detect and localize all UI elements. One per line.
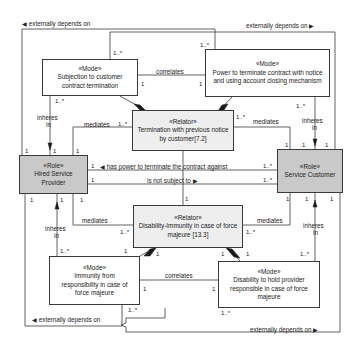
mult: 1 bbox=[302, 142, 305, 149]
mode-immunity-from-responsibility[interactable]: «Mode» Immunity from responsibility in c… bbox=[49, 256, 140, 305]
label-mediates-tl: mediates bbox=[84, 121, 110, 128]
mult: 1..* bbox=[113, 50, 122, 57]
mult: 1 bbox=[143, 286, 146, 293]
mult: 1..* bbox=[246, 229, 255, 236]
class-name: Disability-Immunity in case of force maj… bbox=[137, 222, 239, 239]
mult: 1 bbox=[325, 142, 328, 149]
label-mediates-bl: mediates bbox=[82, 217, 108, 224]
mult: 1..* bbox=[296, 103, 305, 110]
mult: 1 bbox=[76, 148, 79, 155]
mult: 1..* bbox=[236, 114, 245, 121]
label-has-power-to-terminate: ◀ has power to terminate the contract ag… bbox=[100, 163, 228, 171]
mult: 1 bbox=[199, 81, 202, 88]
class-name: Subjection to customer contract terminat… bbox=[46, 73, 134, 90]
stereotype-label: «Mode» bbox=[256, 60, 279, 68]
mult: 1 bbox=[91, 177, 94, 184]
mult: 1 bbox=[286, 196, 289, 203]
label-mediates-tr: mediates bbox=[253, 118, 279, 125]
mult: 1..* bbox=[300, 251, 309, 258]
label-inheres-bl: inheres bbox=[45, 225, 66, 232]
class-name: Hired Service Provider bbox=[28, 170, 79, 187]
diamond-bl bbox=[144, 248, 156, 256]
arrow-right-icon: ▶ bbox=[309, 23, 314, 30]
label-is-not-subject-to: is not subject to ▶ bbox=[147, 177, 198, 185]
mult: 1 bbox=[30, 197, 33, 204]
mult: 1..* bbox=[221, 310, 230, 317]
stereotype-label: «Mode» bbox=[83, 264, 106, 272]
arrow-left-icon: ◀ bbox=[22, 21, 27, 28]
mult: 1 bbox=[305, 196, 308, 203]
arrow-right-icon: ▶ bbox=[313, 327, 318, 334]
mult: 1..* bbox=[200, 42, 209, 49]
class-name: Immunity from responsibility in case of … bbox=[56, 272, 133, 297]
mult: 1..* bbox=[263, 163, 272, 170]
label-in-br: in bbox=[313, 229, 318, 236]
mult: 1..* bbox=[55, 98, 64, 105]
mult: 1 bbox=[25, 148, 28, 155]
mult: 1 bbox=[330, 196, 333, 203]
mode-disability-to-hold-provider-responsible[interactable]: «Mode» Disability to hold provider respo… bbox=[218, 261, 320, 308]
mult: 1 bbox=[156, 251, 159, 258]
label-correlates-bottom: correlates bbox=[165, 272, 193, 279]
label-in-tr: in bbox=[312, 124, 317, 131]
stereotype-label: «Relator» bbox=[169, 118, 197, 126]
class-name: Service Customer bbox=[285, 171, 336, 179]
class-name: Power to terminate contract with notice … bbox=[209, 69, 326, 86]
stereotype-label: «Mode» bbox=[257, 268, 280, 276]
label-in-bl: in bbox=[54, 232, 59, 239]
stereotype-label: «Role» bbox=[43, 162, 63, 170]
label-inheres-br: inheres bbox=[303, 222, 324, 229]
mult: 1..* bbox=[128, 307, 137, 314]
edge-mediates-tr bbox=[234, 127, 290, 149]
mult: 1 bbox=[246, 251, 249, 258]
label-externally-depends-on-bottom-left: ◀ externally depends on bbox=[32, 316, 100, 324]
class-name: Termination with previous notice by cust… bbox=[136, 126, 230, 143]
mult: 1 bbox=[80, 197, 83, 204]
relator-disability-immunity-force-majeure[interactable]: «Relator» Disability-Immunity in case of… bbox=[133, 205, 243, 248]
mult: 1 bbox=[212, 286, 215, 293]
label-inheres-tl: inheres bbox=[37, 114, 58, 121]
mult: 1 bbox=[53, 148, 56, 155]
label-in-tl: in bbox=[46, 121, 51, 128]
label-externally-depends-on-top-left: ◀ externally depends on bbox=[22, 20, 90, 28]
mult: 1 bbox=[60, 197, 63, 204]
arrow-left-icon: ◀ bbox=[32, 317, 37, 324]
stereotype-label: «Role» bbox=[300, 163, 320, 171]
label-inheres-tr: inheres bbox=[302, 117, 323, 124]
label-mediates-br: mediates bbox=[257, 217, 283, 224]
mult: 1 bbox=[221, 251, 224, 258]
mult: 1..* bbox=[263, 177, 272, 184]
stereotype-label: «Relator» bbox=[174, 214, 202, 222]
arrow-left-icon: ◀ bbox=[100, 164, 105, 171]
mult: 1 bbox=[124, 248, 127, 255]
mode-power-to-terminate-contract[interactable]: «Mode» Power to terminate contract with … bbox=[205, 49, 330, 97]
role-hired-service-provider[interactable]: «Role» Hired Service Provider bbox=[19, 155, 88, 194]
stereotype-label: «Mode» bbox=[78, 65, 101, 73]
label-correlates-top: correlates bbox=[156, 68, 184, 75]
mult: 1..* bbox=[120, 229, 129, 236]
mult: 1 bbox=[285, 142, 288, 149]
mode-subjection-to-customer-contract-termination[interactable]: «Mode» Subjection to customer contract t… bbox=[42, 59, 138, 96]
mult: 1 bbox=[91, 163, 94, 170]
edge-mediates-tl bbox=[73, 127, 132, 155]
label-externally-depends-on-bottom-right: externally depends on ▶ bbox=[250, 326, 318, 334]
mult: 1..* bbox=[60, 248, 69, 255]
relator-termination-with-previous-notice[interactable]: «Relator» Termination with previous noti… bbox=[132, 110, 234, 151]
mult: 1..* bbox=[118, 121, 127, 128]
role-service-customer[interactable]: «Role» Service Customer bbox=[277, 149, 343, 193]
label-externally-depends-on-top-right: externally depends on ▶ bbox=[246, 22, 314, 30]
mult: 1 bbox=[185, 196, 188, 203]
class-name: Disability to hold provider responsible … bbox=[222, 276, 316, 301]
mult: 1 bbox=[141, 81, 144, 88]
arrow-right-icon: ▶ bbox=[193, 178, 198, 185]
diamond-br bbox=[226, 248, 240, 258]
